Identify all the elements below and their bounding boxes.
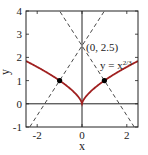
y-tick-label: 4 (17, 5, 23, 17)
data-point (57, 78, 62, 83)
data-point (102, 78, 107, 83)
y-tick-label: 1 (17, 75, 23, 87)
y-tick-label: 3 (17, 28, 23, 40)
curve-label: y = x2/3 (100, 59, 132, 71)
x-tick-label: -2 (33, 129, 42, 141)
y-tick-label: 2 (17, 51, 23, 63)
x-axis-label: x (79, 139, 85, 153)
chart: -202-101234 x y (0, 2.5) y = x2/3 (0, 0, 148, 155)
y-tick-label: -1 (13, 121, 22, 133)
x-tick-label: 2 (124, 129, 130, 141)
y-axis-label: y (0, 69, 12, 75)
tick-labels: -202-101234 (13, 5, 138, 141)
point-annotation: (0, 2.5) (86, 41, 118, 54)
y-tick-label: 0 (17, 98, 23, 110)
